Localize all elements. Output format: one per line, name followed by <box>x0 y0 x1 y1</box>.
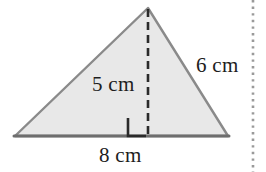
triangle-area-diagram: 5 cm 6 cm 8 cm <box>0 0 266 172</box>
measurement-label-right-side: 6 cm <box>196 55 239 76</box>
measurement-label-base: 8 cm <box>99 145 142 166</box>
measurement-label-left-side: 5 cm <box>92 74 135 95</box>
